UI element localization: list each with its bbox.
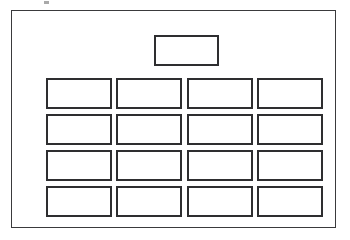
grid-cell[interactable] (257, 150, 323, 181)
header-box[interactable] (154, 35, 219, 66)
grid-cell[interactable] (46, 114, 112, 145)
grid-cell[interactable] (257, 114, 323, 145)
grid-cell[interactable] (116, 150, 182, 181)
grid-cell[interactable] (257, 186, 323, 217)
grid-cell[interactable] (116, 78, 182, 109)
grid-cell[interactable] (187, 78, 253, 109)
grid-cell[interactable] (46, 78, 112, 109)
grid-cell[interactable] (116, 186, 182, 217)
grid-cell[interactable] (257, 78, 323, 109)
scan-artifact-mark (44, 1, 49, 4)
cell-grid (46, 78, 323, 217)
grid-cell[interactable] (46, 150, 112, 181)
grid-cell[interactable] (116, 114, 182, 145)
grid-cell[interactable] (187, 186, 253, 217)
outer-frame (11, 10, 336, 228)
grid-cell[interactable] (187, 114, 253, 145)
diagram-canvas (0, 0, 350, 240)
grid-cell[interactable] (187, 150, 253, 181)
grid-cell[interactable] (46, 186, 112, 217)
